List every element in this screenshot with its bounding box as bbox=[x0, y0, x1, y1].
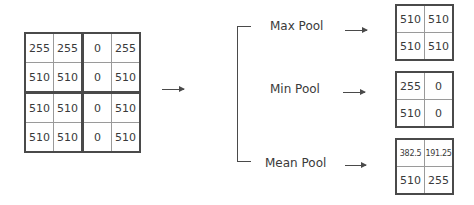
input-cell: 0 bbox=[83, 33, 112, 63]
input-cell: 510 bbox=[112, 93, 141, 123]
result-cell: 510 bbox=[396, 100, 425, 128]
input-cell: 510 bbox=[54, 123, 83, 153]
result-cell: 510 bbox=[425, 33, 454, 61]
input-cell: 0 bbox=[83, 123, 112, 153]
result-cell: 382.5 bbox=[396, 139, 425, 167]
input-matrix: 255 255 0 255 510 510 0 510 510 510 0 51… bbox=[24, 32, 141, 153]
max-pool-label: Max Pool bbox=[270, 19, 323, 33]
input-cell: 510 bbox=[25, 63, 54, 93]
result-cell: 191.25 bbox=[425, 139, 454, 167]
result-cell: 0 bbox=[425, 72, 454, 100]
input-cell: 255 bbox=[25, 33, 54, 63]
max-pool-result: 510 510 510 510 bbox=[395, 4, 454, 61]
input-cell: 510 bbox=[112, 63, 141, 93]
input-cell: 0 bbox=[83, 63, 112, 93]
result-cell: 0 bbox=[425, 100, 454, 128]
result-cell: 510 bbox=[396, 33, 425, 61]
mean-pool-arrow-icon bbox=[345, 165, 366, 166]
input-cell: 255 bbox=[54, 33, 83, 63]
result-cell: 255 bbox=[425, 167, 454, 195]
min-pool-arrow-icon bbox=[343, 92, 365, 93]
input-cell: 510 bbox=[54, 63, 83, 93]
input-cell: 510 bbox=[25, 123, 54, 153]
max-pool-arrow-icon bbox=[345, 30, 367, 31]
main-arrow-icon bbox=[162, 89, 184, 90]
input-cell: 0 bbox=[83, 93, 112, 123]
input-cell: 255 bbox=[112, 33, 141, 63]
result-cell: 255 bbox=[396, 72, 425, 100]
result-cell: 510 bbox=[396, 5, 425, 33]
result-cell: 510 bbox=[396, 167, 425, 195]
input-cell: 510 bbox=[112, 123, 141, 153]
input-cell: 510 bbox=[54, 93, 83, 123]
mean-pool-label: Mean Pool bbox=[265, 156, 326, 170]
bracket-connector bbox=[237, 26, 251, 162]
result-cell: 510 bbox=[425, 5, 454, 33]
mean-pool-result: 382.5 191.25 510 255 bbox=[395, 138, 454, 195]
min-pool-result: 255 0 510 0 bbox=[395, 71, 454, 128]
min-pool-label: Min Pool bbox=[270, 82, 320, 96]
input-cell: 510 bbox=[25, 93, 54, 123]
